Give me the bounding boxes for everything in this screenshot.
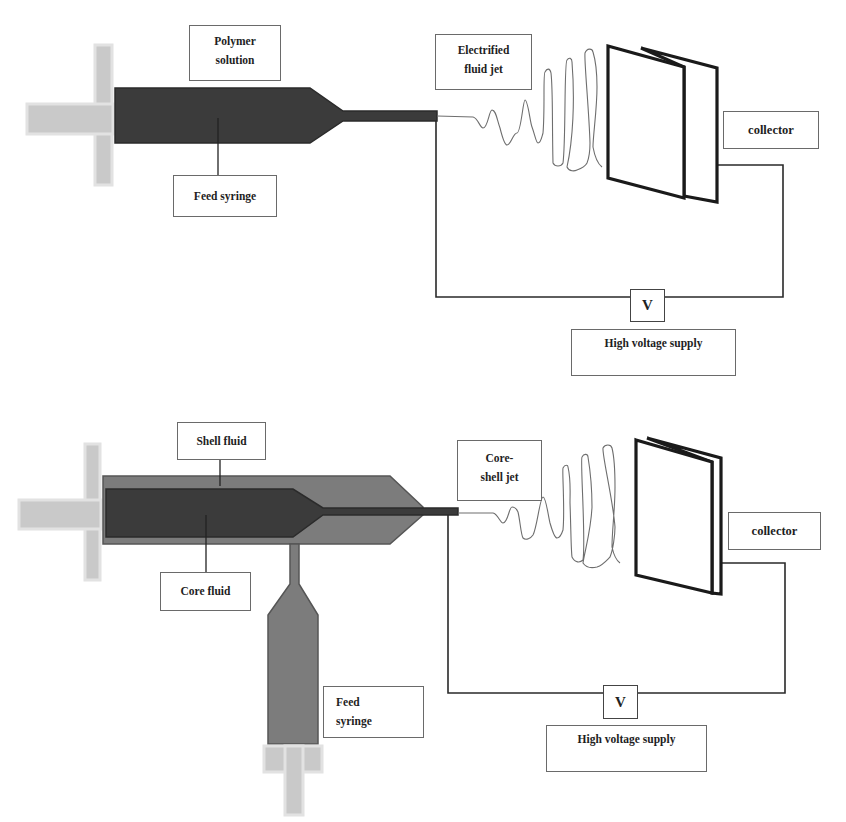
top-plunger (27, 45, 113, 185)
bottom-circuit-wire (448, 515, 603, 693)
bottom-voltage-symbol: V (603, 685, 638, 719)
side-feed-syringe (268, 544, 318, 744)
bottom-plunger (19, 444, 101, 580)
core-shell-jet-label: Core- shell jet (457, 440, 542, 501)
bottom-collector-plates (636, 438, 721, 594)
top-feed-syringe-body (115, 88, 437, 143)
top-high-voltage-supply-label: High voltage supply (571, 329, 736, 376)
top-feed-syringe-label: Feed syringe (173, 175, 277, 217)
top-circuit-wire (436, 121, 630, 297)
electrified-jet-label: Electrified fluid jet (435, 34, 532, 90)
bottom-feed-syringe-label: Feed syringe (323, 686, 424, 738)
bottom-collector-label: collector (728, 512, 821, 550)
side-plunger (264, 746, 322, 815)
core-fluid-label: Core fluid (160, 572, 251, 611)
top-voltage-symbol: V (630, 289, 665, 322)
shell-fluid-label: Shell fluid (177, 422, 266, 460)
polymer-solution-label: Polymer solution (189, 25, 281, 81)
top-collector-label: collector (723, 111, 819, 149)
bottom-high-voltage-supply-label: High voltage supply (546, 725, 707, 772)
top-setup (27, 45, 783, 297)
top-collector-plates (608, 46, 717, 202)
